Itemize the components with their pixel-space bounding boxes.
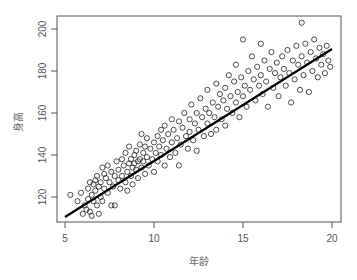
data-point [118,186,123,191]
data-point [256,83,261,88]
data-point [164,146,169,151]
data-point [180,125,185,130]
data-point [175,136,180,141]
data-point [182,110,187,115]
data-point [214,127,219,132]
data-point [207,110,212,115]
data-point [237,115,242,120]
data-point [130,182,135,187]
data-point [258,41,263,46]
data-point [272,71,277,76]
data-point [176,119,181,124]
data-point [171,127,176,132]
data-point [144,155,149,160]
data-point [169,140,174,145]
x-tick-label: 15 [237,233,249,244]
data-point [265,104,270,109]
y-axis: 120140160180200 [37,20,57,205]
data-point [294,43,299,48]
data-point [283,83,288,88]
data-point [276,94,281,99]
y-tick-label: 160 [37,104,48,121]
y-tick-label: 200 [37,20,48,37]
data-point [151,169,156,174]
data-point [251,77,256,82]
x-axis: 5101520 [62,222,338,244]
data-point [274,60,279,65]
data-point [139,131,144,136]
data-point [326,58,331,63]
regression-line [65,49,332,217]
data-point [322,71,327,76]
data-point [187,129,192,134]
data-point [105,163,110,168]
data-point [303,41,308,46]
data-point [290,58,295,63]
data-point [86,186,91,191]
data-point [299,20,304,25]
y-tick-label: 180 [37,62,48,79]
data-point [262,58,267,63]
data-point [285,47,290,52]
data-point [258,73,263,78]
data-point [255,64,260,69]
data-point [143,144,148,149]
data-point [233,100,238,105]
data-point [176,163,181,168]
data-point [240,94,245,99]
data-point [289,100,294,105]
data-point [232,79,237,84]
data-point [151,140,156,145]
data-point [216,104,221,109]
data-point [319,62,324,67]
data-point [116,167,121,172]
data-point [121,163,126,168]
data-point [201,134,206,139]
data-point [123,150,128,155]
data-point [167,155,172,160]
data-point [308,50,313,55]
data-point [94,203,99,208]
data-point [162,163,167,168]
data-point [292,77,297,82]
x-tick-label: 10 [148,233,160,244]
data-point [324,43,329,48]
data-point [143,171,148,176]
data-point [240,37,245,42]
data-point [264,79,269,84]
data-point [194,148,199,153]
data-point [96,211,101,216]
data-point [135,176,140,181]
data-point [310,68,315,73]
data-point [224,106,229,111]
data-point [246,68,251,73]
data-point [189,102,194,107]
data-point [119,157,124,162]
data-point [226,73,231,78]
data-point [312,37,317,42]
data-point [173,150,178,155]
data-point [198,96,203,101]
scatter-chart: 5101520 120140160180200 年龄 身高 [0,0,357,280]
y-axis-title: 身高 [12,112,24,132]
data-point [112,203,117,208]
data-point [155,134,160,139]
data-point [267,66,272,71]
data-point [249,54,254,59]
data-point [192,121,197,126]
x-axis-title: 年龄 [189,255,209,267]
data-point [200,115,205,120]
data-point [228,94,233,99]
data-point [223,123,228,128]
data-point [157,144,162,149]
data-point [205,87,210,92]
y-tick-label: 140 [37,146,48,163]
data-point [233,62,238,67]
data-point [242,83,247,88]
data-point [114,159,119,164]
data-point [137,142,142,147]
data-point [299,54,304,59]
data-point [162,123,167,128]
data-point [210,100,215,105]
data-point [217,92,222,97]
